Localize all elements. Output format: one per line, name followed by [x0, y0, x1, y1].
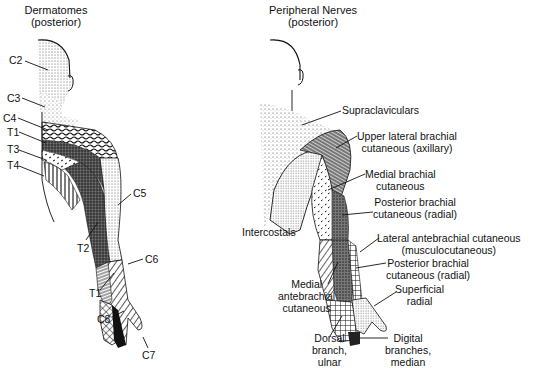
peripheral-nerves-figure: Peripheral Nerves (posterior) Supraclavi…: [240, 0, 535, 368]
peripheral-nerves-leader-lines: [240, 0, 535, 368]
dermatomes-leader-lines: [0, 0, 240, 368]
dermatomes-figure: Dermatomes (posterior) C2 C3 C4 T1 T3 T4…: [0, 0, 240, 368]
